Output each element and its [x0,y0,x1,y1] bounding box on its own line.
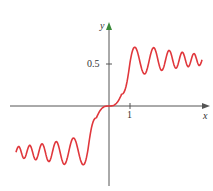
x-tick-label: 1 [127,109,132,120]
y-axis-arrow-icon [106,22,112,30]
x-axis-label: x [203,110,207,121]
x-axis-arrow-icon [202,103,210,109]
y-axis-label: y [100,20,104,31]
y-tick-label: 0.5 [87,58,100,69]
plot-area [0,0,213,191]
